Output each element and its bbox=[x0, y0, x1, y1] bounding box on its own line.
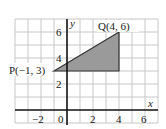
x-axis-label: x bbox=[147, 97, 153, 109]
point-p-label: P(−1, 3) bbox=[9, 64, 45, 77]
x-tick-label: 0 bbox=[58, 113, 64, 125]
shaded-triangle bbox=[54, 32, 119, 71]
y-axis-label: y bbox=[69, 17, 75, 29]
x-tick-label: 4 bbox=[116, 113, 122, 125]
coordinate-diagram: y x 6 4 2 −2 0 2 4 6 P(−1, 3) Q(4, 6) bbox=[0, 0, 166, 129]
x-tick-label: −2 bbox=[32, 113, 44, 125]
y-tick-label: 2 bbox=[56, 78, 62, 90]
x-tick-label: 6 bbox=[141, 113, 147, 125]
point-q-label: Q(4, 6) bbox=[98, 20, 130, 33]
y-tick-label: 4 bbox=[56, 52, 62, 64]
y-tick-label: 6 bbox=[56, 26, 62, 38]
x-tick-label: 2 bbox=[90, 113, 96, 125]
